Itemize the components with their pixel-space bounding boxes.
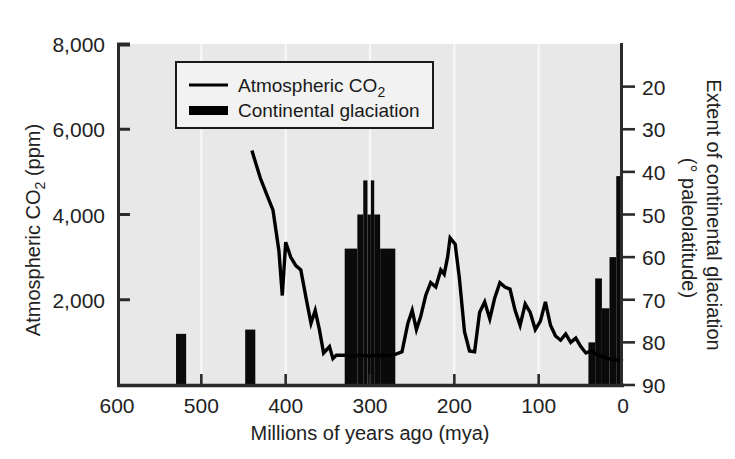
- y2-tick-label: 20: [642, 76, 665, 99]
- x-tick-label: 300: [352, 394, 387, 417]
- legend-label-glaciation: Continental glaciation: [238, 100, 420, 121]
- legend-label-co2-main: Atmospheric CO: [238, 75, 377, 96]
- legend-marker-bar: [189, 106, 228, 115]
- glaciation-bar: [588, 342, 595, 385]
- glaciation-bar: [602, 308, 610, 385]
- x-axis-title: Millions of years ago (mya): [251, 422, 490, 444]
- glaciation-bar: [245, 330, 255, 385]
- glaciation-bar: [357, 215, 363, 386]
- chart-canvas: 2,0004,0006,0008,000 2030405060708090 60…: [0, 0, 735, 459]
- y-axis-title-main: Atmospheric CO: [22, 189, 44, 336]
- y2-tick-label: 70: [642, 289, 665, 312]
- y2-axis-title-line1: Extent of continental glaciation: [703, 79, 725, 350]
- y-axis-tick-labels: 2,0004,0006,0008,000: [52, 33, 105, 312]
- x-tick-label: 500: [184, 394, 219, 417]
- y-tick-label: 6,000: [52, 118, 105, 141]
- glaciation-bar: [610, 257, 617, 385]
- y-axis-title-subscript: 2: [32, 181, 48, 189]
- legend-label-co2-subscript: 2: [377, 84, 385, 100]
- legend: Atmospheric CO2 Continental glaciation: [176, 62, 433, 128]
- x-axis-tick-labels: 6005004003002001000: [99, 394, 628, 417]
- figure-co2-glaciation: 2,0004,0006,0008,000 2030405060708090 60…: [0, 0, 735, 459]
- y2-axis-ticks: [623, 87, 635, 385]
- x-tick-label: 0: [617, 394, 629, 417]
- y2-tick-label: 40: [642, 161, 665, 184]
- glaciation-bar: [367, 215, 370, 386]
- glaciation-bar: [380, 249, 395, 385]
- y2-tick-label: 90: [642, 374, 665, 397]
- x-tick-label: 200: [437, 394, 472, 417]
- y2-axis-title-line2: (° paleolatitude): [678, 158, 700, 298]
- y2-tick-label: 60: [642, 246, 665, 269]
- glaciation-bar: [595, 278, 602, 385]
- y2-tick-label: 80: [642, 331, 665, 354]
- y-axis-title: Atmospheric CO2 (ppm): [22, 124, 48, 336]
- y2-tick-label: 30: [642, 118, 665, 141]
- y-tick-label: 4,000: [52, 204, 105, 227]
- y-tick-label: 2,000: [52, 289, 105, 312]
- y2-tick-label: 50: [642, 204, 665, 227]
- x-tick-label: 400: [268, 394, 303, 417]
- x-tick-label: 600: [99, 394, 134, 417]
- glaciation-bar: [374, 215, 380, 386]
- y-axis-title-units: (ppm): [22, 124, 44, 182]
- y-tick-label: 8,000: [52, 33, 105, 56]
- y2-axis-tick-labels: 2030405060708090: [642, 76, 665, 397]
- glaciation-bar: [345, 249, 358, 385]
- x-tick-label: 100: [521, 394, 556, 417]
- glaciation-bar: [176, 334, 186, 385]
